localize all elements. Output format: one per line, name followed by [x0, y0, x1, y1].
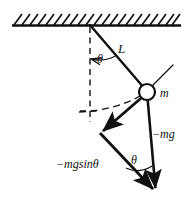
angle-arc-vector: [126, 166, 152, 171]
weight-label: −mg: [152, 128, 175, 140]
pendulum-bob: [139, 84, 155, 100]
angle-label-pivot: θ: [97, 53, 103, 65]
force-vectors: [100, 92, 155, 189]
diagram-canvas: [0, 0, 189, 204]
pendulum-force-diagram: L m −mg −mgsinθ θ θ: [0, 0, 189, 204]
ceiling-support: [12, 14, 181, 26]
mass-label: m: [160, 87, 169, 99]
angle-label-vector: θ: [131, 154, 137, 166]
tangential-force-label: −mgsinθ: [56, 158, 99, 170]
equilibrium-reference: [80, 27, 100, 122]
angle-arc-pivot: [92, 56, 116, 60]
swing-arc: [79, 96, 140, 112]
tangential-force-vector: [103, 93, 147, 131]
tangent-guide-line: [152, 65, 173, 86]
ceiling-hatching: [14, 14, 180, 25]
resultant-vector: [100, 133, 153, 189]
length-label: L: [118, 42, 125, 55]
